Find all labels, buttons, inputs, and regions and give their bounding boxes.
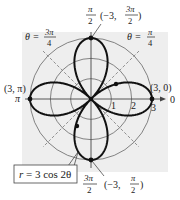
equation-rhs: = 3 cos 2θ <box>26 168 71 180</box>
point-left-label: (3, π) <box>4 83 26 95</box>
angle-bottom-den: 2 <box>87 185 92 195</box>
angle-right: 0 <box>170 94 175 105</box>
point-right-petal <box>114 82 118 86</box>
point-right <box>150 97 155 102</box>
point-bottom-open: (−3, <box>104 179 120 191</box>
radial-tick-3: 3 <box>151 102 156 113</box>
point-bottom-num: π <box>131 173 136 183</box>
point-top-close: ) <box>138 10 141 22</box>
point-right-label: (3, 0) <box>150 82 172 94</box>
theta-3pi4-prefix: θ = <box>25 31 39 42</box>
point-top-open: (−3, <box>100 10 116 22</box>
angle-bottom-num: 3π <box>83 173 94 183</box>
angle-top-den: 2 <box>88 16 93 26</box>
point-lower-petal <box>75 124 79 128</box>
point-top-num: 3π <box>125 4 135 14</box>
radial-tick-1: 1 <box>111 100 116 111</box>
point-top-den: 2 <box>128 16 132 26</box>
theta-3pi4-num: 3π <box>44 27 54 37</box>
polar-rose-figure: 1 2 3 π 2 3π 2 π 0 θ = 3π 4 θ = π 4 (−3,… <box>0 0 180 200</box>
equation-lhs: r <box>19 168 24 180</box>
radial-tick-2: 2 <box>131 100 136 111</box>
theta-pi4-num: π <box>148 27 153 37</box>
angle-left: π <box>15 93 21 104</box>
equation-box: r = 3 cos 2θ <box>14 165 77 183</box>
angle-top-num: π <box>88 4 93 14</box>
point-origin <box>89 97 93 101</box>
point-bottom-close: ) <box>140 179 143 191</box>
point-bottom-den: 2 <box>131 185 135 195</box>
point-left <box>28 97 33 102</box>
theta-pi4-prefix: θ = <box>127 31 141 42</box>
